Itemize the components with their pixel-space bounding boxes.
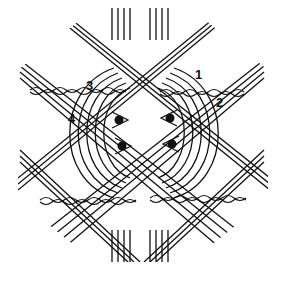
lace-pattern-svg [0,0,284,286]
lace-diagram: 1 2 3 4 [0,0,284,286]
label-4: 4 [68,112,75,125]
label-2: 2 [216,96,223,109]
diagonal-bands-a [20,20,270,262]
left-arc-group [70,68,130,198]
diagonal-bands-b [18,20,264,262]
vertical-bundles [112,8,168,262]
twisted-pairs [30,88,246,205]
label-1: 1 [195,68,202,81]
pins [115,114,177,151]
right-arc-group [158,68,218,198]
label-3: 3 [86,79,93,92]
